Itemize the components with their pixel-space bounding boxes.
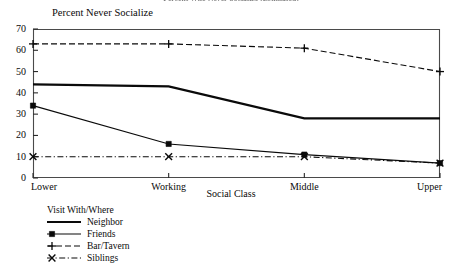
legend-item: Bar/Tavern xyxy=(47,240,130,252)
legend-item-label: Neighbor xyxy=(87,217,123,227)
legend-dashed-swatch-icon xyxy=(47,240,81,252)
legend: Visit With/Where NeighborFriendsBar/Tave… xyxy=(47,205,130,264)
data-point-marker xyxy=(30,103,35,108)
plot-svg xyxy=(33,29,440,178)
series-line xyxy=(33,157,440,163)
y-axis-tick-label: 40 xyxy=(0,88,26,98)
legend-item: Neighbor xyxy=(47,216,130,228)
legend-item-label: Friends xyxy=(87,229,116,239)
plot-area xyxy=(33,29,440,178)
legend-items: NeighborFriendsBar/TavernSiblings xyxy=(47,216,130,264)
x-axis-title: Social Class xyxy=(0,188,462,199)
clipped-figure-title: Percent Who Never Socialize (Estimated) xyxy=(0,0,462,1)
legend-solid-thick-swatch-icon xyxy=(47,216,81,228)
series-line xyxy=(33,106,440,163)
y-axis-title: Percent Never Socialize xyxy=(52,7,153,18)
legend-solid-thin-swatch-icon xyxy=(47,228,81,240)
y-axis-tick-label: 60 xyxy=(0,45,26,55)
series-neighbor xyxy=(33,84,440,118)
y-axis-tick-label: 10 xyxy=(0,152,26,162)
y-axis-tick-label: 0 xyxy=(0,173,26,183)
legend-title: Visit With/Where xyxy=(47,205,130,215)
y-axis-tick-label: 30 xyxy=(0,109,26,119)
legend-dash-dot-swatch-icon xyxy=(47,252,81,264)
y-axis-tick-label: 20 xyxy=(0,130,26,140)
data-point-marker xyxy=(166,141,171,146)
y-axis-tick-label: 70 xyxy=(0,24,26,34)
legend-item-label: Siblings xyxy=(87,253,118,263)
chart-figure: Percent Who Never Socialize (Estimated) … xyxy=(0,0,462,279)
legend-item: Siblings xyxy=(47,252,130,264)
legend-marker xyxy=(49,231,54,236)
legend-item-label: Bar/Tavern xyxy=(87,241,130,251)
y-axis-tick-label: 50 xyxy=(0,67,26,77)
series-line xyxy=(33,84,440,118)
series-friends xyxy=(30,103,442,166)
series-bar-tavern xyxy=(29,40,444,76)
legend-item: Friends xyxy=(47,228,130,240)
series-line xyxy=(33,44,440,72)
